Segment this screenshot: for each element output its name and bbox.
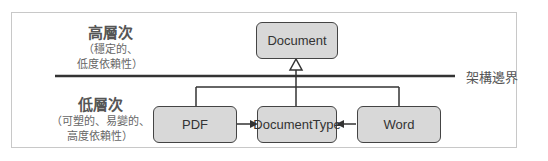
node-document: Document — [256, 22, 338, 59]
inheritance-arrow-icon — [290, 59, 302, 70]
boundary-label: 架構邊界 — [466, 67, 518, 86]
node-document-type: DocumentType — [257, 106, 337, 143]
node-pdf: PDF — [153, 106, 237, 143]
node-document-label: Document — [267, 33, 326, 48]
node-pdf-label: PDF — [182, 117, 208, 132]
node-document-type-label: DocumentType — [253, 117, 340, 132]
node-word: Word — [357, 106, 441, 143]
node-word-label: Word — [384, 117, 415, 132]
